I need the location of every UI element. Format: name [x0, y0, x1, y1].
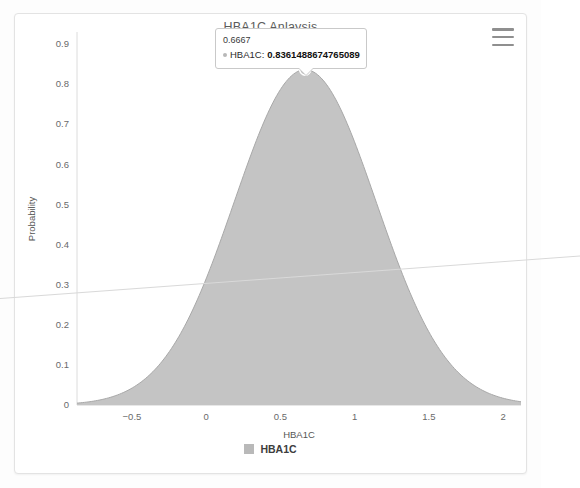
tooltip-x-label: 0.6667 [223, 34, 359, 47]
tooltip-pointer [299, 68, 313, 75]
y-tick-label: 0.1 [56, 359, 69, 370]
y-tick-label: 0.5 [56, 199, 69, 210]
hamburger-line [492, 28, 514, 31]
legend-swatch [244, 444, 254, 454]
tooltip-series-dot [223, 53, 227, 57]
y-tick-label: 0.8 [56, 78, 69, 89]
tooltip-series-value: 0.8361488674765089 [267, 48, 359, 62]
y-tick-label: 0.3 [56, 279, 69, 290]
x-tick-label: 1.5 [422, 411, 435, 422]
y-axis-title: Probability [26, 197, 37, 242]
chart-card: HBA1C Anlaysis Probability [14, 13, 527, 474]
x-tick-label: 0 [204, 411, 209, 422]
tooltip-series-row: HBA1C: 0.8361488674765089 [223, 48, 359, 62]
x-tick-label: 2 [501, 411, 506, 422]
hamburger-menu-icon[interactable] [492, 28, 514, 46]
y-tick-label: 0.6 [56, 159, 69, 170]
chart-legend: HBA1C [15, 443, 526, 455]
legend-label[interactable]: HBA1C [260, 443, 296, 455]
tooltip-series-name: HBA1C: [230, 48, 264, 62]
x-tick-label: 0.5 [274, 411, 287, 422]
chart-tooltip: 0.6667 HBA1C: 0.8361488674765089 [215, 28, 367, 69]
y-tick-label: 0.7 [56, 118, 69, 129]
plot-area: Probability HBA1C 00.10.20.30.40.50.60.7… [15, 14, 528, 475]
hamburger-line [492, 36, 514, 39]
y-tick-label: 0.2 [56, 319, 69, 330]
hamburger-line [492, 44, 514, 47]
x-axis-title: HBA1C [283, 429, 315, 440]
y-tick-label: 0.4 [56, 239, 69, 250]
x-tick-label: −0.5 [123, 411, 142, 422]
x-tick-label: 1 [352, 411, 357, 422]
y-tick-label: 0 [64, 399, 69, 410]
density-area [77, 70, 521, 405]
y-tick-label: 0.9 [56, 38, 69, 49]
